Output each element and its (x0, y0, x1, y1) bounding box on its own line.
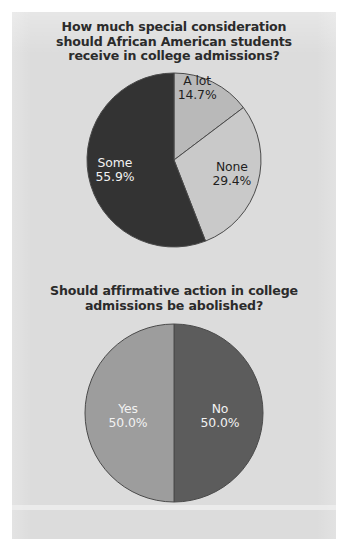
pie-chart-2-block: Should affirmative action in college adm… (12, 284, 336, 517)
figure-page: How much special consideration should Af… (0, 0, 348, 550)
pie-chart-1-canvas: A lot14.7%None29.4%Some55.9% (12, 70, 336, 262)
pie-chart-1-block: How much special consideration should Af… (12, 20, 336, 262)
pie-chart-2-slices (85, 324, 263, 502)
pie-slice-category-label: None (216, 159, 248, 174)
pie-slice-category-label: Some (98, 154, 133, 169)
pie-slice-category-label: Yes (117, 401, 138, 416)
pie-slice-value-label: 29.4% (212, 173, 251, 188)
pie-slice-value-label: 50.0% (109, 415, 148, 430)
scan-page-area: How much special consideration should Af… (12, 12, 336, 539)
pie-chart-2-canvas: No50.0%Yes50.0% (12, 321, 336, 517)
pie-slice-value-label: 14.7% (178, 87, 217, 102)
pie-chart-2-svg: No50.0%Yes50.0% (74, 321, 274, 515)
pie-chart-1-svg: A lot14.7%None29.4%Some55.9% (74, 70, 274, 260)
pie-chart-1-title: How much special consideration should Af… (12, 20, 336, 64)
pie-slice-category-label: A lot (183, 73, 211, 88)
pie-slice-value-label: 55.9% (96, 168, 135, 183)
pie-slice-category-label: No (212, 401, 229, 416)
pie-chart-2-title: Should affirmative action in college adm… (12, 284, 336, 313)
pie-slice-value-label: 50.0% (201, 415, 240, 430)
